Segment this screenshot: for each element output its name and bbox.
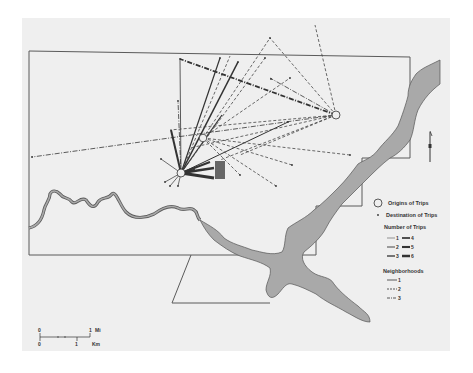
legend-neighborhood-lines [387,280,397,298]
trip-map [0,0,473,373]
scale-mi-one: 1 [89,327,92,333]
destination-dots [31,37,351,187]
legend-destination-icon [377,214,379,216]
dense-trip-block [215,161,225,179]
legend-trip-count-5: 5 [411,244,414,250]
legend-trip-count-title: Number of Trips [384,224,426,230]
legend-trip-count-2: 2 [396,244,399,250]
legend-origins-label: Origins of Trips [388,200,429,206]
legend-trip-count-3: 3 [396,253,399,259]
river-west [29,191,200,228]
origin-marker-1 [177,169,185,177]
river-main [200,60,440,322]
scale-km-zero: 0 [38,341,41,347]
legend-trip-count-4: 4 [411,235,414,241]
legend-neighborhood-1: 1 [398,277,401,283]
north-arrow-icon [429,131,433,162]
scale-km-one: 1 [75,341,78,347]
scale-mi-unit: Mi [95,327,101,333]
legend-neighborhood-2: 2 [398,286,401,292]
legend-destinations-label: Destination of Trips [386,212,437,218]
legend-trip-count-1: 1 [396,235,399,241]
trip-lines-neighborhood-3 [32,59,336,173]
legend-trip-count-6: 6 [411,253,414,259]
legend-neighborhoods-title: Neighborhoods [383,268,424,274]
legend-neighborhood-3: 3 [398,295,401,301]
scale-km-unit: Km [92,341,100,347]
scale-mi-zero: 0 [38,327,41,333]
legend-origin-icon [374,199,382,207]
origin-marker-3 [332,111,340,119]
origin-marker-2 [199,134,207,142]
scale-bar [40,333,90,341]
trip-lines-neighborhood-2 [170,25,350,186]
